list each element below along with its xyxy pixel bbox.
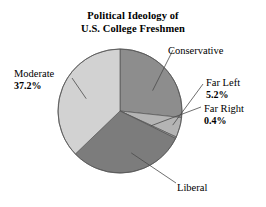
slice-label-conservative: Conservative — [168, 45, 223, 57]
slice-label-moderate: Moderate 37.2% — [14, 68, 54, 91]
slice-label-far-left-name: Far Left — [206, 77, 240, 89]
pie-slice-conservative — [120, 49, 182, 118]
slice-label-far-left-percent: 5.2% — [206, 89, 240, 101]
slice-label-moderate-percent: 37.2% — [14, 80, 54, 92]
slice-label-far-right: Far Right 0.4% — [204, 103, 244, 126]
slice-label-conservative-name: Conservative — [168, 45, 223, 57]
slice-label-moderate-name: Moderate — [14, 68, 54, 80]
slice-label-liberal: Liberal — [177, 182, 207, 194]
slice-label-far-left: Far Left 5.2% — [206, 77, 240, 100]
slice-label-far-right-name: Far Right — [204, 103, 244, 115]
slice-label-liberal-name: Liberal — [177, 182, 207, 194]
slice-label-far-right-percent: 0.4% — [204, 115, 244, 127]
pie-slices-group — [58, 49, 182, 173]
pie-chart-figure: Political Ideology of U.S. College Fresh… — [0, 0, 266, 207]
